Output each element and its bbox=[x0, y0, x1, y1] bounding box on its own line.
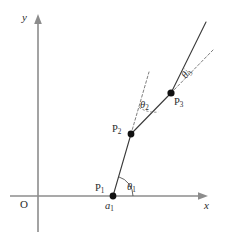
point-label-p1: P1 bbox=[95, 183, 104, 194]
vertex-dot-p2 bbox=[128, 131, 135, 138]
point-label-p2-sub: 2 bbox=[118, 128, 122, 136]
angle-label-theta1: θ1 bbox=[127, 182, 136, 193]
y-axis-arrowhead bbox=[34, 14, 42, 24]
polyline-path bbox=[113, 22, 206, 196]
point-label-p3-base: P bbox=[174, 96, 180, 107]
y-axis-label: y bbox=[22, 12, 27, 23]
parameter-label-a1: a1 bbox=[105, 201, 114, 212]
origin-label: O bbox=[20, 199, 28, 210]
angle-label-theta2-sub: 2 bbox=[145, 104, 149, 112]
x-axis-label: x bbox=[204, 200, 209, 211]
point-label-p1-base: P bbox=[95, 182, 101, 193]
geometry-figure: y x O P1 P2 P3 θ1 θ2 θ3 a1 bbox=[0, 0, 228, 248]
angle-label-theta2: θ2 bbox=[140, 100, 149, 111]
point-label-p1-sub: 1 bbox=[101, 187, 105, 195]
point-label-p2-base: P bbox=[112, 123, 118, 134]
vertex-dot-p1 bbox=[110, 193, 117, 200]
point-label-p2: P2 bbox=[112, 124, 121, 135]
parameter-label-a1-sub: 1 bbox=[110, 205, 114, 213]
angle-label-theta1-sub: 1 bbox=[132, 186, 136, 194]
point-label-p3: P3 bbox=[174, 97, 183, 108]
point-label-p3-sub: 3 bbox=[180, 101, 184, 109]
